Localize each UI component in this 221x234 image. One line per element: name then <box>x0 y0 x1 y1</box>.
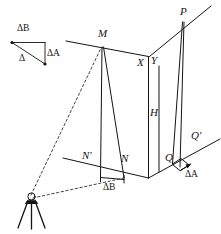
label-vertex-n: N <box>121 153 128 164</box>
right-facade-plumb-lines <box>173 22 185 167</box>
label-vertex-m: M <box>98 28 107 39</box>
figure-canvas: ΔB ΔA Δ M P X Y H N' N Q Q' ΔB ΔA <box>0 0 221 234</box>
delta-b-bar-span <box>101 178 125 180</box>
delta-a-arrow-head <box>186 164 192 169</box>
triangle-vertex-dot-bottom <box>43 62 46 65</box>
tripod-leg-left <box>18 204 27 229</box>
sight-line-to-m <box>31 48 101 195</box>
label-vertex-n-prime: N' <box>82 150 92 161</box>
label-vertex-p: P <box>180 6 187 17</box>
label-vertex-q-prime: Q' <box>191 130 201 141</box>
label-delta-b-base: ΔB <box>103 183 115 193</box>
label-delta-resultant: Δ <box>19 54 25 64</box>
label-vertex-x: X <box>137 57 144 68</box>
label-height-h: H <box>150 107 158 118</box>
dashed-sight-lines <box>31 48 124 198</box>
label-delta-b-triangle: ΔB <box>17 24 29 34</box>
label-delta-a-base: ΔA <box>185 170 198 180</box>
triangle-edge-resultant <box>12 43 45 65</box>
label-delta-a-triangle: ΔA <box>47 49 60 59</box>
triangle-vertex-dot-left <box>10 41 13 44</box>
line-m-to-n-prime <box>101 47 103 177</box>
theodolite-tripod <box>18 193 45 229</box>
label-vertex-y: Y <box>151 55 157 66</box>
error-vector-triangle <box>12 43 45 65</box>
label-vertex-q: Q <box>165 152 173 163</box>
tripod-leg-right <box>36 204 45 229</box>
wall-top-edge-left <box>66 41 149 57</box>
diagram-svg <box>0 0 221 234</box>
